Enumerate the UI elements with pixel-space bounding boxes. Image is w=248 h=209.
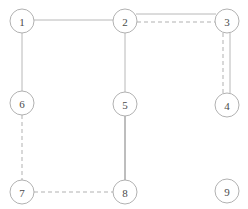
node-label-3: 3 [224, 16, 230, 28]
graph-node-3[interactable]: 3 [215, 9, 239, 33]
graph-node-8[interactable]: 8 [113, 180, 137, 204]
node-label-7: 7 [19, 187, 25, 199]
graph-node-7[interactable]: 7 [10, 180, 34, 204]
graph-node-1[interactable]: 1 [10, 9, 34, 33]
node-label-6: 6 [19, 98, 25, 110]
graph-node-6[interactable]: 6 [10, 91, 34, 115]
graph-svg-surface: 123456789 [0, 0, 248, 209]
graph-node-4[interactable]: 4 [215, 93, 239, 117]
graph-node-5[interactable]: 5 [113, 92, 137, 116]
graph-node-2[interactable]: 2 [113, 9, 137, 33]
node-label-8: 8 [122, 187, 128, 199]
graph-node-9[interactable]: 9 [215, 179, 239, 203]
node-label-4: 4 [224, 100, 230, 112]
graph-diagram: 123456789 [0, 0, 248, 209]
node-label-5: 5 [122, 99, 128, 111]
node-label-2: 2 [122, 16, 128, 28]
node-label-1: 1 [19, 16, 25, 28]
node-label-9: 9 [224, 186, 230, 198]
